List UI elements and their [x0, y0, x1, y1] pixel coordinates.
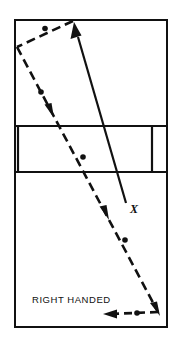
ball-path-dot: [38, 89, 44, 95]
target-marker-label: X: [129, 202, 139, 216]
bowling-lane-diagram: X RIGHT HANDED: [0, 0, 181, 345]
ball-path-dot: [42, 26, 48, 32]
ball-path-dot: [80, 154, 86, 160]
diagram-canvas: X RIGHT HANDED: [0, 0, 181, 345]
ball-path-dot: [134, 310, 140, 316]
handedness-label: RIGHT HANDED: [32, 294, 111, 305]
ball-path-dot: [122, 237, 128, 243]
bowling-lane-outline: [15, 20, 167, 327]
